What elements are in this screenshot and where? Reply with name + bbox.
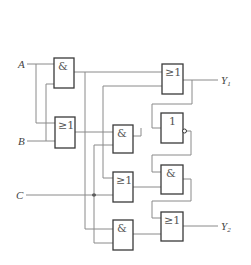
gate-or-1: ≥1 [55, 117, 75, 148]
gate-symbol: ≥1 [164, 214, 180, 227]
gate-symbol: ≥1 [165, 66, 181, 79]
gate-symbol: & [117, 222, 127, 235]
gate-symbol: & [166, 167, 176, 180]
circuit-svg: & ≥1 ≥1 & 1 ≥1 & & ≥1 A B C Y1 Y2 [0, 0, 251, 265]
gate-or-2: ≥1 [113, 172, 133, 202]
output-label-y2: Y2 [221, 220, 231, 234]
gate-not: 1 [161, 113, 187, 143]
gate-or-y2: ≥1 [161, 212, 183, 241]
input-label-b: B [18, 135, 25, 147]
input-label-a: A [17, 58, 25, 70]
gate-symbol: ≥1 [58, 119, 74, 132]
gate-or-y1: ≥1 [162, 64, 183, 94]
gate-symbol: & [58, 60, 68, 73]
gate-symbol: ≥1 [116, 174, 132, 187]
inverter-bubble [183, 129, 187, 133]
gate-and-4: & [113, 220, 133, 250]
gate-and-2: & [113, 125, 133, 153]
output-label-y1: Y1 [221, 74, 231, 88]
gate-and-1: & [54, 58, 74, 88]
gate-symbol: 1 [169, 115, 176, 128]
gate-and-3: & [161, 165, 183, 194]
input-label-c: C [16, 189, 24, 201]
gate-symbol: & [117, 127, 127, 140]
logic-circuit-diagram: & ≥1 ≥1 & 1 ≥1 & & ≥1 A B C Y1 Y2 [0, 0, 251, 265]
